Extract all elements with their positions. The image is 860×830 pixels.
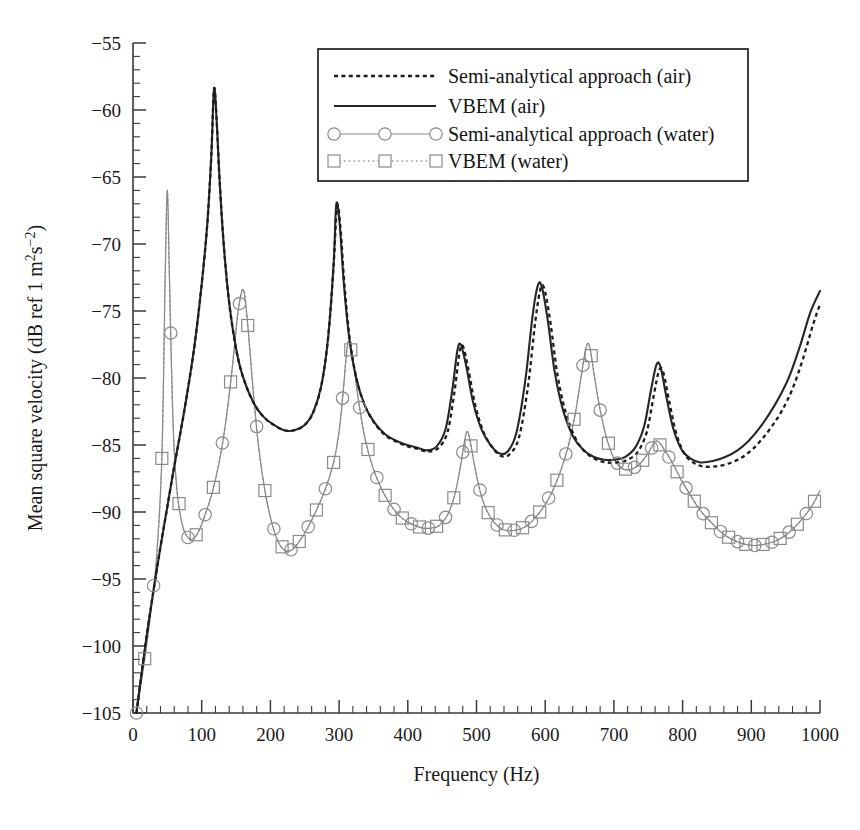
y-tick-label: −95	[91, 569, 121, 590]
x-tick-label: 100	[187, 724, 216, 745]
legend: Semi-analytical approach (air)VBEM (air)…	[318, 49, 748, 181]
y-tick-label: −75	[91, 301, 121, 322]
y-tick-label: −60	[91, 100, 121, 121]
legend-marker-circle	[328, 128, 340, 140]
y-axis-title: Mean square velocity (dB ref 1 m2s−2)	[23, 225, 47, 531]
chart-svg: 01002003004005006007008009001000−105−100…	[0, 0, 860, 830]
y-tick-label: −85	[91, 435, 121, 456]
curve-semi-analytical-water	[136, 190, 820, 713]
legend-label: Semi-analytical approach (air)	[448, 65, 691, 88]
y-tick-label: −105	[82, 703, 121, 724]
x-tick-label: 900	[737, 724, 766, 745]
x-tick-label: 800	[668, 724, 697, 745]
y-tick-label: −80	[91, 368, 121, 389]
curve-vbem-water	[136, 190, 820, 713]
y-tick-label: −100	[82, 636, 121, 657]
y-tick-label: −70	[91, 234, 121, 255]
legend-label: Semi-analytical approach (water)	[448, 123, 715, 146]
data-markers	[130, 297, 820, 719]
x-tick-label: 500	[462, 724, 491, 745]
legend-label: VBEM (air)	[448, 95, 545, 118]
x-tick-label: 1000	[801, 724, 839, 745]
legend-marker-square	[379, 155, 391, 167]
x-tick-label: 600	[531, 724, 560, 745]
legend-marker-circle	[379, 128, 391, 140]
x-axis-title: Frequency (Hz)	[413, 763, 539, 786]
legend-marker-square	[328, 155, 340, 167]
y-tick-label: −55	[91, 33, 121, 54]
x-tick-label: 400	[394, 724, 423, 745]
x-tick-label: 700	[600, 724, 629, 745]
legend-marker-square	[430, 155, 442, 167]
legend-marker-circle	[430, 128, 442, 140]
x-tick-label: 0	[128, 724, 138, 745]
x-tick-label: 200	[256, 724, 285, 745]
x-tick-label: 300	[325, 724, 354, 745]
figure-container: 01002003004005006007008009001000−105−100…	[0, 0, 860, 830]
y-tick-label: −65	[91, 167, 121, 188]
legend-label: VBEM (water)	[448, 150, 569, 173]
y-tick-label: −90	[91, 502, 121, 523]
